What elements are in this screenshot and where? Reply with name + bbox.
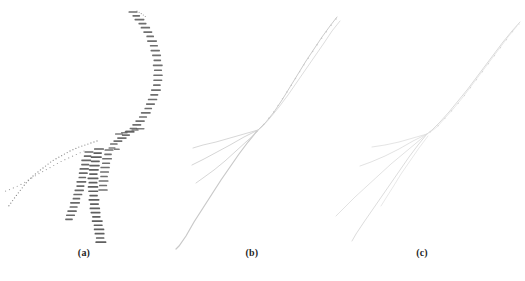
figure-canvas bbox=[0, 0, 525, 281]
subfigure-caption-c: (c) bbox=[400, 247, 444, 258]
subfigure-caption-a: (a) bbox=[62, 247, 106, 258]
subfigure-caption-b: (b) bbox=[230, 247, 274, 258]
paper-figure: (a) (b) (c) bbox=[0, 0, 525, 281]
